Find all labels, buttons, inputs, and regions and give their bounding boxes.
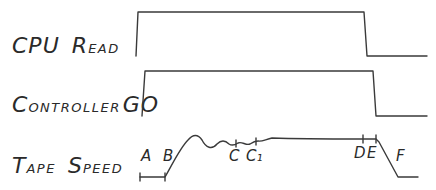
point-label-d: D xyxy=(354,144,366,162)
point-label-b: B xyxy=(163,147,173,165)
timing-diagram: CPU READ CONTROLLERGO TAPE SPEED A B C C… xyxy=(0,0,436,190)
point-label-c: C xyxy=(229,147,239,165)
point-label-e: E xyxy=(367,144,376,162)
point-label-c1: C₁ xyxy=(246,147,263,165)
controller-go-waveform xyxy=(142,71,427,116)
point-label-a: A xyxy=(141,147,151,165)
point-label-f: F xyxy=(396,147,405,165)
cpu-read-waveform xyxy=(136,12,427,56)
